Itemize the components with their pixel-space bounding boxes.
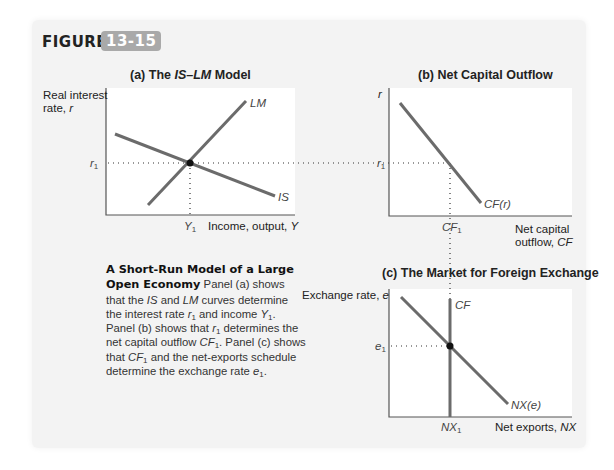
panel-a-equilibrium-point bbox=[187, 160, 194, 167]
panel-b-cf1-tick: CF1 bbox=[442, 221, 462, 234]
panel-c-y-axis-label: Exchange rate, e bbox=[302, 289, 389, 302]
panel-c-nx1-tick: NX1 bbox=[441, 421, 461, 434]
panel-b-x-axis-label: Net capitaloutflow, CF bbox=[515, 223, 573, 249]
nx-e-curve-label: NX(e) bbox=[511, 399, 541, 412]
lm-curve-label: LM bbox=[250, 97, 266, 110]
panel-a-x-axis-label: Income, output, Y bbox=[208, 220, 298, 233]
panel-b-r1-tick: r1 bbox=[377, 157, 385, 170]
panel-c-x-axis-label: Net exports, NX bbox=[495, 421, 576, 434]
panel-b-y-axis-label: r bbox=[378, 88, 382, 101]
panel-a-y-axis-label: Real interestrate, r bbox=[43, 89, 108, 115]
panel-b-plot-area bbox=[389, 88, 572, 216]
panel-c-e1-tick: e1 bbox=[375, 340, 386, 353]
cf-r-curve-label: CF(r) bbox=[484, 198, 511, 211]
panel-c-equilibrium-point bbox=[447, 343, 454, 350]
panel-c-plot-area bbox=[389, 289, 572, 417]
panel-a-y1-tick: Y1 bbox=[184, 220, 196, 233]
cf-line-label: CF bbox=[455, 299, 470, 312]
panel-a-plot-area bbox=[106, 88, 295, 215]
is-curve-label: IS bbox=[278, 191, 289, 204]
panel-a-r1-tick: r1 bbox=[90, 157, 98, 170]
figure-caption: A Short-Run Model of a Large Open Econom… bbox=[106, 262, 306, 378]
